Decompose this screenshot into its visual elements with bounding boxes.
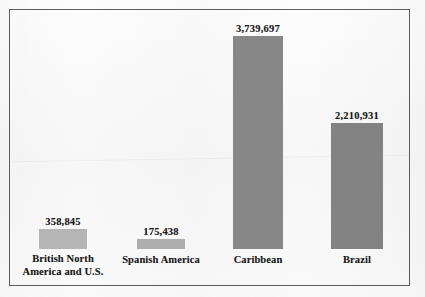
bar-group-british-north-america: 358,845 (39, 216, 87, 249)
category-label-line: America and U.S. (15, 266, 111, 279)
bar-value-label: 3,739,697 (236, 23, 280, 34)
bar-rect (233, 36, 283, 249)
bar-value-label: 358,845 (45, 216, 81, 227)
bar-group-brazil: 2,210,931 (331, 110, 383, 249)
bar-category-label-brazil: Brazil (309, 254, 405, 267)
category-label-line: Spanish America (113, 254, 209, 267)
bar-category-label-caribbean: Caribbean (210, 254, 306, 267)
bar-value-label: 2,210,931 (335, 110, 379, 121)
bar-category-label-british-north-america: British North America and U.S. (15, 253, 111, 278)
bar-group-spanish-america: 175,438 (137, 226, 185, 249)
bar-rect (331, 123, 383, 249)
category-label-line: Brazil (309, 254, 405, 267)
chart-figure: 358,845 British North America and U.S. 1… (0, 0, 425, 297)
plot-area: 358,845 British North America and U.S. 1… (9, 9, 410, 286)
bar-rect (39, 229, 87, 249)
bar-category-label-spanish-america: Spanish America (113, 254, 209, 267)
category-label-line: British North (15, 253, 111, 266)
bar-group-caribbean: 3,739,697 (233, 23, 283, 249)
bar-value-label: 175,438 (143, 226, 179, 237)
category-label-line: Caribbean (210, 254, 306, 267)
bar-rect (137, 239, 185, 249)
